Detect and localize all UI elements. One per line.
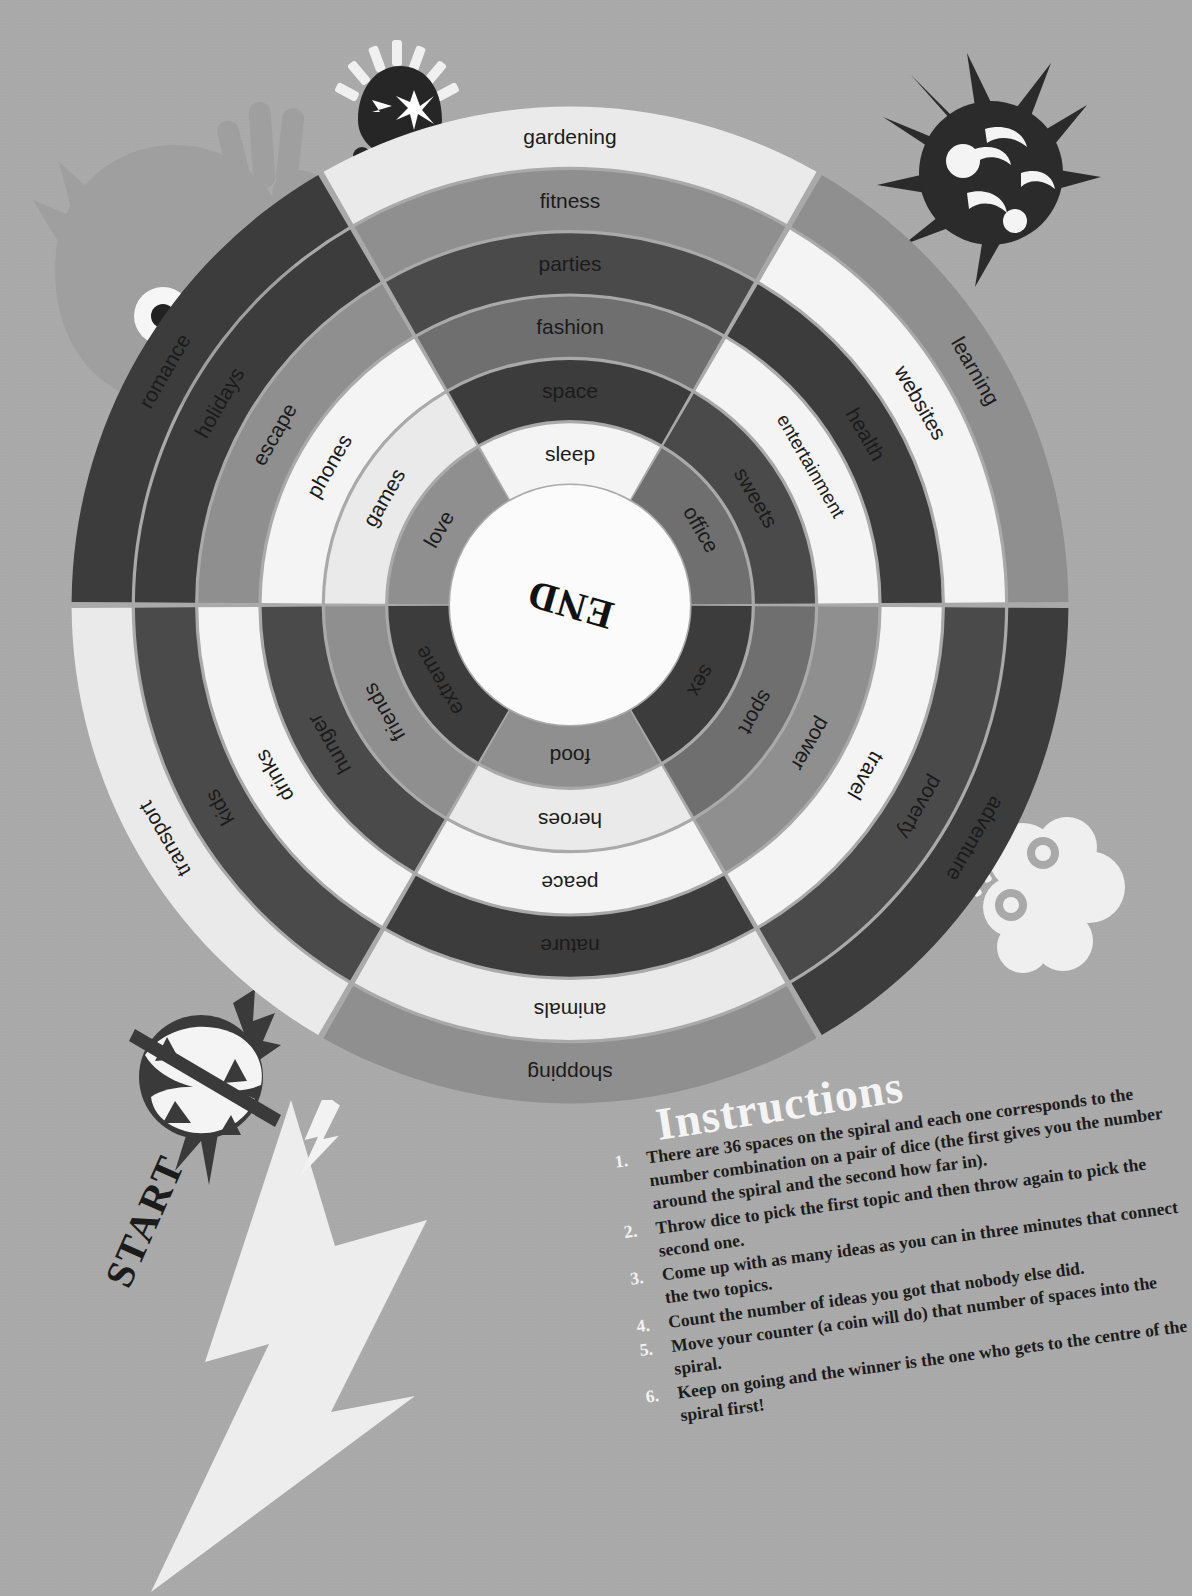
start-lightning-bolt-icon [55, 1100, 475, 1596]
wheel-segment-label: sleep [545, 442, 595, 465]
instruction-number: 1. [613, 1147, 642, 1173]
wheel-segment-label: fashion [536, 315, 604, 338]
wheel-segment-label: peace [541, 872, 598, 895]
wheel-segment-label: nature [540, 935, 600, 958]
wheel-segment-label: parties [538, 252, 601, 275]
instruction-number: 5. [638, 1336, 667, 1362]
wheel-segment-label: gardening [523, 125, 616, 148]
wheel-segment-label: animals [534, 999, 606, 1022]
instruction-number: 2. [623, 1218, 652, 1244]
instruction-number: 3. [629, 1265, 658, 1291]
instruction-number: 6. [644, 1383, 673, 1409]
wheel-segment-label: heroes [538, 809, 602, 832]
wheel-segment-label: food [550, 745, 591, 768]
wheel-segment-label: fitness [540, 189, 601, 212]
game-spiral-wheel[interactable]: END gardeningfitnesspartiesfashionspaces… [60, 95, 1080, 1115]
wheel-segment-label: space [542, 379, 598, 402]
instructions-panel: Instructions 1.There are 36 spaces on th… [600, 1007, 1192, 1477]
instruction-number: 4. [635, 1312, 664, 1338]
